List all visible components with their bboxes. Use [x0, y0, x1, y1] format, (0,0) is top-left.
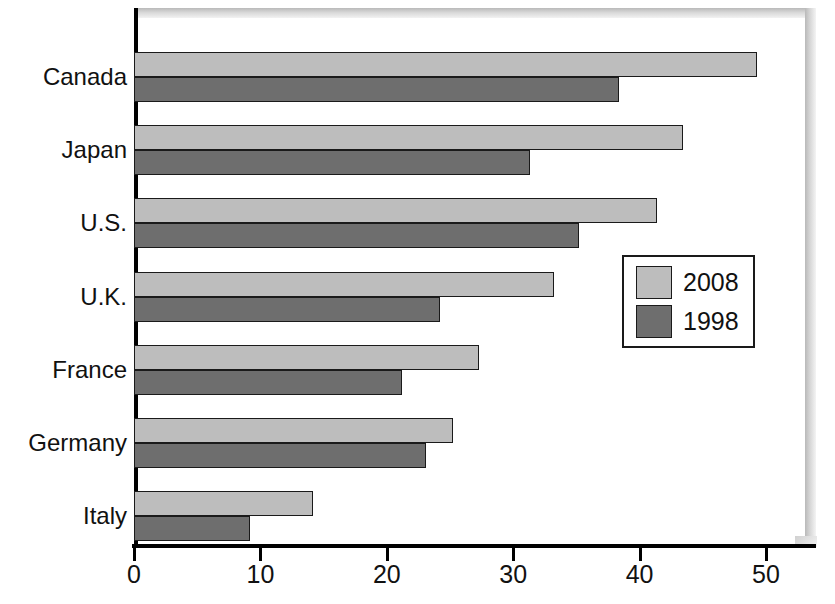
x-tick-label-0: 0: [127, 562, 141, 587]
bar-germany-2008: [134, 418, 453, 443]
bar-us-1998: [134, 223, 579, 248]
chart-screenshot: CanadaJapanU.S.U.K.FranceGermanyItaly 01…: [0, 0, 835, 604]
x-tick-label-40: 40: [626, 562, 654, 587]
bar-germany-1998: [134, 443, 426, 468]
legend-item-1998: 1998: [636, 305, 739, 338]
bar-japan-1998: [134, 150, 530, 175]
category-label-italy: Italy: [2, 504, 127, 528]
legend-swatch-1998: [636, 305, 672, 338]
category-label-japan: Japan: [2, 138, 127, 162]
category-label-us: U.S.: [2, 211, 127, 235]
legend-label-2008: 2008: [683, 270, 739, 295]
bar-france-1998: [134, 370, 402, 395]
legend-swatch-2008: [636, 266, 672, 299]
x-tick-label-30: 30: [499, 562, 527, 587]
category-label-france: France: [2, 358, 127, 382]
bar-italy-1998: [134, 516, 250, 541]
bar-uk-1998: [134, 297, 440, 322]
x-tick-label-10: 10: [246, 562, 274, 587]
bar-canada-2008: [134, 52, 757, 77]
bar-uk-2008: [134, 272, 554, 297]
bar-canada-1998: [134, 77, 619, 102]
legend-label-1998: 1998: [683, 309, 739, 334]
x-tick-label-20: 20: [373, 562, 401, 587]
bar-france-2008: [134, 345, 479, 370]
bar-japan-2008: [134, 125, 683, 150]
legend-item-2008: 2008: [636, 266, 739, 299]
category-axis-labels: CanadaJapanU.S.U.K.FranceGermanyItaly: [0, 0, 127, 604]
x-tick-label-50: 50: [752, 562, 780, 587]
bar-us-2008: [134, 198, 657, 223]
category-label-uk: U.K.: [2, 285, 127, 309]
category-label-germany: Germany: [2, 431, 127, 455]
chart-legend: 2008 1998: [622, 255, 755, 348]
category-label-canada: Canada: [2, 65, 127, 89]
frame-right-bevel: [805, 8, 816, 546]
bar-italy-2008: [134, 491, 313, 516]
